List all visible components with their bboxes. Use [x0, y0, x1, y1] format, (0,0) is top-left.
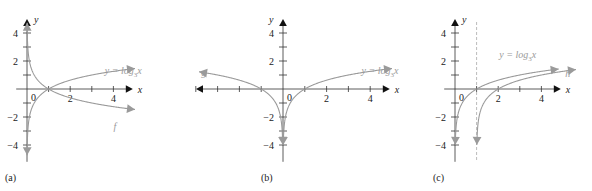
- x-axis-arrow-icon: [126, 85, 133, 93]
- y-tick-label: −2: [435, 112, 446, 123]
- panel-label: (b): [261, 172, 273, 184]
- y-axis-arrow-icon: [451, 19, 459, 26]
- curve-arrow-icon: [127, 104, 135, 113]
- curve-h-transformed: [477, 70, 576, 145]
- y-axis-label: y: [33, 14, 39, 25]
- y-tick-label: 4: [13, 28, 18, 39]
- panel-b: xy2442−2−40y = log3xg(b): [196, 14, 400, 184]
- curve-label-log3x: y = log3x: [104, 65, 142, 79]
- curve-arrow-icon: [473, 137, 482, 145]
- x-axis-label: x: [394, 84, 400, 95]
- curve-label-h: h: [565, 68, 570, 79]
- curve-y: [283, 68, 392, 144]
- y-tick-label: −2: [7, 112, 18, 123]
- curve-arrow-icon: [23, 147, 32, 155]
- x-tick-label: 4: [539, 93, 544, 104]
- y-axis-label: y: [268, 14, 274, 25]
- curve-label-log3x: y = log3x: [498, 49, 536, 63]
- curve-arrow-icon: [451, 137, 460, 145]
- curve-arrow-icon: [23, 23, 32, 31]
- panel-a: xy2442−2−40y = log3xf(a): [5, 14, 143, 184]
- y-tick-label: 2: [441, 56, 446, 67]
- x-tick-label: 4: [111, 93, 116, 104]
- panel-label: (a): [5, 172, 16, 184]
- curve-y: [455, 69, 558, 145]
- y-tick-label: −4: [435, 140, 446, 151]
- x-axis-arrow-icon: [383, 85, 390, 93]
- curve-y: [27, 68, 135, 155]
- figure-log-transformations: xy2442−2−40y = log3xf(a)xy2442−2−40y = l…: [0, 0, 592, 191]
- panel-c: xy2442−2−40y = log3xh(c): [433, 14, 576, 184]
- y-tick-label: 2: [269, 56, 274, 67]
- curve-label-f: f: [113, 121, 117, 132]
- y-tick-label: −2: [263, 112, 274, 123]
- x-tick-label: 2: [324, 93, 329, 104]
- y-axis-arrow-icon: [279, 19, 287, 26]
- x-tick-label: 2: [496, 93, 501, 104]
- y-tick-label: 2: [13, 56, 18, 67]
- curve-label-g: g: [201, 67, 206, 78]
- x-tick-label: 4: [368, 93, 373, 104]
- y-axis-label: y: [461, 14, 467, 25]
- curve-label-log3x: y = log3x: [360, 65, 398, 79]
- y-tick-label: 4: [441, 28, 446, 39]
- curve-g-transformed: [199, 72, 283, 145]
- x-axis-arrow-icon: [554, 85, 561, 93]
- x-axis-left-arrow-icon: [196, 85, 203, 93]
- panel-label: (c): [433, 172, 444, 184]
- x-axis-label: x: [565, 84, 571, 95]
- x-axis-label: x: [137, 84, 143, 95]
- y-tick-label: 4: [269, 28, 274, 39]
- y-tick-label: −4: [263, 140, 274, 151]
- curve-arrow-icon: [278, 137, 287, 145]
- y-tick-label: −4: [7, 140, 18, 151]
